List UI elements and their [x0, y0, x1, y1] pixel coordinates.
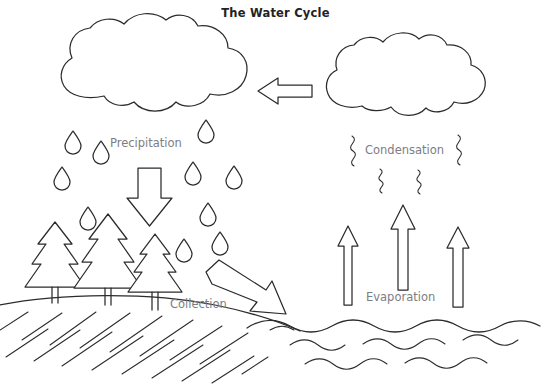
water-wave	[290, 340, 345, 351]
raindrop	[200, 203, 216, 226]
label-collection: Collection	[170, 297, 227, 311]
label-condensation: Condensation	[365, 143, 444, 157]
raindrop	[80, 207, 96, 230]
label-evaporation: Evaporation	[366, 290, 435, 304]
water-wave	[405, 358, 487, 369]
raindrop	[212, 232, 228, 255]
diagram-canvas	[0, 0, 551, 386]
evaporation-arrow	[391, 205, 415, 290]
squiggle	[379, 169, 383, 193]
raindrop	[93, 141, 109, 164]
raindrop	[198, 120, 214, 143]
raindrop	[226, 166, 242, 189]
cloud-transport-arrow	[258, 78, 312, 104]
water-wave	[363, 339, 445, 350]
condensation-cloud	[326, 33, 485, 115]
evaporation-arrow	[338, 226, 358, 305]
raindrop	[65, 131, 81, 154]
water-wave	[305, 359, 387, 370]
precipitation-arrow	[127, 168, 172, 226]
rain-cloud	[61, 14, 247, 111]
pine-tree	[25, 222, 85, 303]
label-precipitation: Precipitation	[110, 136, 182, 150]
raindrop	[54, 167, 70, 190]
raindrop	[185, 162, 201, 185]
squiggle	[351, 136, 356, 166]
hillside-hatching	[0, 312, 268, 383]
squiggle	[417, 170, 421, 194]
raindrop	[176, 239, 192, 262]
squiggle	[457, 135, 462, 165]
water-surface-wave	[247, 320, 540, 332]
evaporation-arrow	[447, 227, 469, 307]
water-cycle-diagram: The Water Cycle	[0, 0, 551, 386]
water-wave	[463, 335, 518, 346]
